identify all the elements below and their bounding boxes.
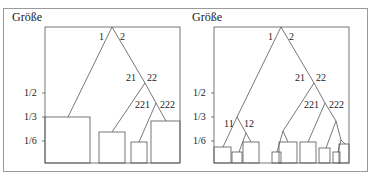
right-label-222: 222	[329, 99, 344, 110]
left-leaf-221	[131, 142, 147, 163]
right-tick-label-third: 1/3	[193, 111, 206, 122]
right-leaf-12b	[243, 142, 259, 163]
right-tick-label-half: 1/2	[193, 87, 206, 98]
left-leaf-1	[45, 117, 90, 163]
left-branch-1	[68, 27, 112, 117]
left-label-21: 21	[126, 72, 136, 83]
right-leaf-222b2	[339, 144, 349, 163]
right-branch-21b	[283, 131, 288, 142]
right-tick-label-sixth: 1/6	[193, 135, 206, 146]
left-label-2: 2	[120, 31, 125, 42]
right-branch-222b2	[341, 140, 345, 144]
right-label-11: 11	[224, 118, 234, 129]
right-label-22: 22	[316, 72, 326, 83]
right-branch-12a	[239, 133, 246, 152]
right-branch-222b1	[338, 140, 341, 152]
right-label-1: 1	[268, 31, 273, 42]
right-label-2: 2	[289, 31, 294, 42]
right-plot-box	[214, 27, 349, 163]
left-label-22: 22	[147, 72, 157, 83]
left-plot-box	[45, 27, 180, 163]
right-branch-1	[237, 27, 281, 117]
right-leaf-12a	[232, 152, 242, 163]
right-branch-222a	[326, 121, 336, 148]
right-branch-12b	[246, 133, 251, 142]
right-leaf-221	[300, 142, 316, 163]
right-branch-222b	[336, 121, 341, 140]
left-leaf-222	[151, 121, 180, 163]
tree-diagram: Größe 1/2 1/3 1/6 1 2 21 22 221 222 Größ…	[0, 0, 372, 177]
right-leaf-222a	[319, 148, 330, 163]
right-label-12: 12	[244, 118, 254, 129]
right-branch-21a	[277, 131, 283, 152]
left-tick-label-half: 1/2	[24, 87, 37, 98]
left-label-222: 222	[160, 99, 175, 110]
right-leaf-21b	[279, 142, 297, 163]
right-label-21: 21	[295, 72, 305, 83]
left-tick-label-third: 1/3	[24, 111, 37, 122]
left-leaf-21	[99, 132, 125, 163]
left-tick-label-sixth: 1/6	[24, 135, 37, 146]
right-leaf-21a	[272, 152, 281, 163]
right-label-221: 221	[304, 99, 319, 110]
left-label-221: 221	[135, 99, 150, 110]
left-panel-title: Größe	[12, 10, 42, 24]
right-leaf-11	[214, 147, 231, 163]
left-label-1: 1	[99, 31, 104, 42]
right-panel-title: Größe	[192, 10, 222, 24]
